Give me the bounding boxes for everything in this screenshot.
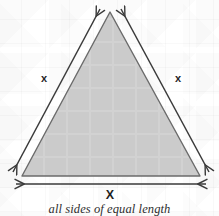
triangle-diagram-svg: x x X [0, 0, 219, 216]
right-side-label: x [175, 72, 182, 84]
geometry-figure: x x X all sides of equal length [0, 0, 219, 216]
figure-caption: all sides of equal length [0, 202, 219, 216]
base-label: X [106, 188, 115, 202]
left-side-label: x [41, 72, 48, 84]
